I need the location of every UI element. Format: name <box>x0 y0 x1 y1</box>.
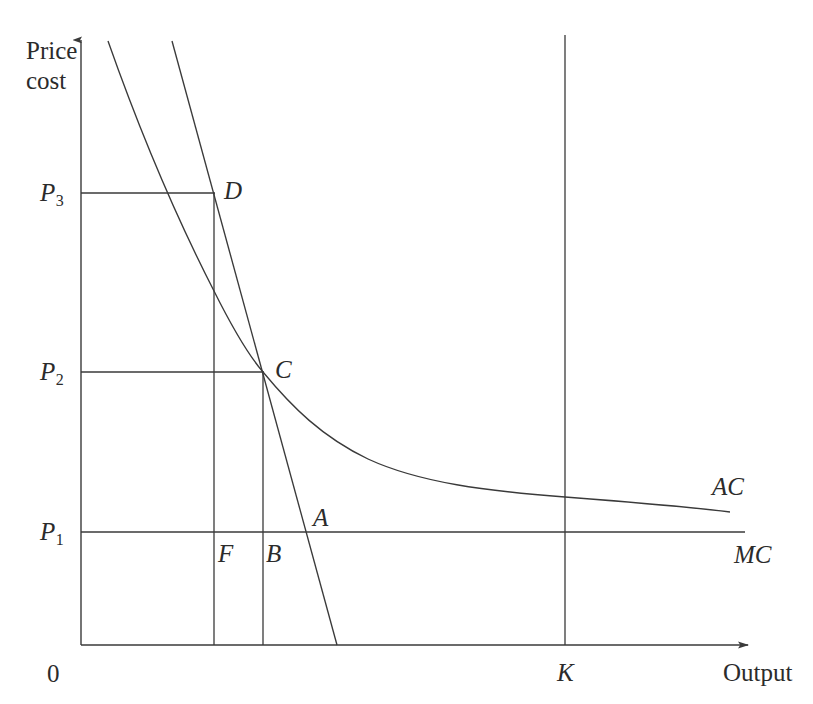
mc-line-label: MC <box>734 542 772 567</box>
price-label-p3-base: P <box>40 179 55 206</box>
ac-curve-label: AC <box>712 474 744 499</box>
price-label-p1-base: P <box>40 518 55 545</box>
y-axis-label-line2: cost <box>26 68 66 93</box>
capacity-label-k: K <box>557 660 574 685</box>
x-axis-label: Output <box>723 660 792 685</box>
ac-curve <box>108 41 730 512</box>
point-label-d: D <box>224 178 242 203</box>
diagram-canvas <box>0 0 813 704</box>
point-label-c: C <box>275 357 292 382</box>
price-label-p1: P1 <box>40 519 64 548</box>
point-label-f: F <box>218 541 233 566</box>
demand-line <box>172 41 337 645</box>
price-label-p1-sub: 1 <box>55 531 64 548</box>
origin-label: 0 <box>47 661 60 686</box>
price-label-p2-sub: 2 <box>55 371 64 388</box>
price-label-p2-base: P <box>40 358 55 385</box>
point-label-a: A <box>313 505 328 530</box>
point-label-b: B <box>266 541 281 566</box>
price-label-p3: P3 <box>40 180 64 209</box>
price-label-p3-sub: 3 <box>55 192 64 209</box>
economics-diagram: Price cost Output 0 P3 P2 P1 D C A F B A… <box>0 0 813 704</box>
y-axis-label-line1: Price <box>26 38 77 63</box>
price-label-p2: P2 <box>40 359 64 388</box>
